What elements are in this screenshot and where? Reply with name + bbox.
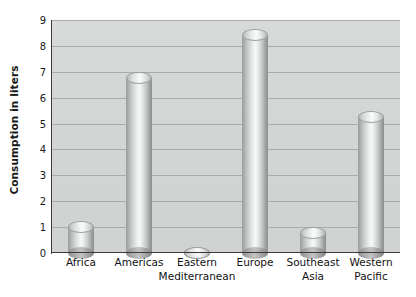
y-tick-label: 8 bbox=[8, 40, 52, 51]
bar bbox=[300, 227, 326, 253]
x-tick-label: Western Pacific bbox=[349, 256, 392, 283]
y-axis-tick-labels: 0123456789 bbox=[0, 0, 52, 297]
bar bbox=[358, 111, 384, 253]
bar bbox=[242, 29, 268, 253]
bar-top-ellipse bbox=[68, 221, 94, 233]
y-tick-label: 7 bbox=[8, 66, 52, 77]
y-tick-label: 3 bbox=[8, 170, 52, 181]
x-tick-label: Southeast Asia bbox=[287, 256, 340, 283]
x-axis-tick-labels: AfricaAmericasEastern MediterraneanEurop… bbox=[52, 256, 400, 296]
y-tick-label: 0 bbox=[8, 248, 52, 259]
gridline bbox=[52, 201, 400, 202]
bar-top-ellipse bbox=[242, 29, 268, 41]
gridline bbox=[52, 98, 400, 99]
y-tick-label: 9 bbox=[8, 15, 52, 26]
bar-top-ellipse bbox=[358, 111, 384, 123]
x-axis-line bbox=[52, 252, 400, 253]
gridline bbox=[52, 124, 400, 125]
bar-body bbox=[126, 78, 152, 253]
x-tick-label: Europe bbox=[237, 256, 274, 270]
y-tick-label: 5 bbox=[8, 118, 52, 129]
x-tick-label: Africa bbox=[66, 256, 96, 270]
x-tick-label: Americas bbox=[115, 256, 164, 270]
gridline bbox=[52, 20, 400, 21]
y-tick-label: 4 bbox=[8, 144, 52, 155]
gridline bbox=[52, 72, 400, 73]
y-axis-line bbox=[51, 20, 52, 254]
bar bbox=[68, 221, 94, 253]
y-tick-label: 6 bbox=[8, 92, 52, 103]
gridline bbox=[52, 46, 400, 47]
bar-body bbox=[358, 117, 384, 253]
gridline bbox=[52, 149, 400, 150]
bar bbox=[126, 72, 152, 253]
bar-body bbox=[242, 35, 268, 253]
plot-area bbox=[52, 20, 400, 253]
gridline bbox=[52, 227, 400, 228]
bar-top-ellipse bbox=[126, 72, 152, 84]
chart-screenshot: Consumption in liters 0123456789 AfricaA… bbox=[0, 0, 416, 297]
gridline bbox=[52, 175, 400, 176]
x-tick-label: Eastern Mediterranean bbox=[159, 256, 236, 283]
y-tick-label: 1 bbox=[8, 222, 52, 233]
y-tick-label: 2 bbox=[8, 196, 52, 207]
